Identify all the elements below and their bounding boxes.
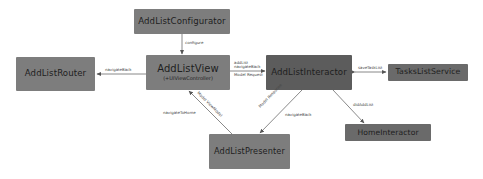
node-home-interactor: HomeInteractor <box>345 124 431 141</box>
node-add-list-configurator: AddListConfigurator <box>134 9 230 34</box>
node-title: AddListInteractor <box>271 68 347 77</box>
node-add-list-router: AddListRouter <box>16 57 95 91</box>
label-configure: configure <box>185 41 203 45</box>
node-title: AddListConfigurator <box>138 17 226 26</box>
vip-architecture-diagram: AddListConfigurator AddListRouter AddLis… <box>0 0 483 179</box>
label-did-add-list: didAddList <box>353 103 373 107</box>
label-navigate-back-interactor: navigateBack <box>234 65 260 69</box>
node-tasks-list-service: TasksListService <box>388 64 468 81</box>
label-model-request: Model Request <box>234 73 263 77</box>
node-title: AddListRouter <box>25 69 86 78</box>
label-navigate-back-presenter: navigateBack <box>285 113 311 117</box>
node-title: TasksListService <box>396 68 461 76</box>
label-save-task-list: saveTaskList <box>358 66 382 70</box>
node-add-list-view: AddListView (+UIViewController) <box>146 55 230 90</box>
node-title: AddListView <box>157 64 219 75</box>
node-add-list-presenter: AddListPresenter <box>209 134 290 169</box>
node-subtitle: (+UIViewController) <box>163 76 213 81</box>
label-navigate-to-home: navigateToHome <box>163 111 196 115</box>
node-title: HomeInteractor <box>357 129 418 137</box>
node-title: AddListPresenter <box>214 147 285 156</box>
label-navigate-back-router: navigateBack <box>105 68 131 72</box>
